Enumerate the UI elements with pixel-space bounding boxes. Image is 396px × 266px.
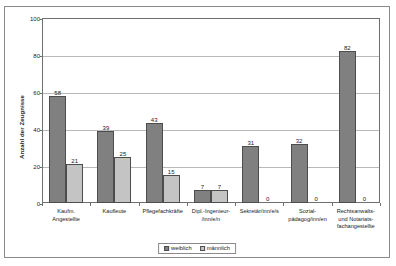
bar-weiblich[interactable]: 82	[339, 51, 356, 203]
x-tick-mark	[380, 203, 381, 206]
x-tick-label-line: und Notariats-	[328, 216, 384, 224]
bar-value-label: 0	[363, 196, 366, 202]
bar-value-label: 39	[103, 125, 110, 131]
y-axis-title-text: Anzahl der Zeugnisse	[19, 67, 25, 187]
bar-value-label: 58	[54, 90, 61, 96]
bar-value-label: 25	[120, 151, 127, 157]
bar-group: 4315	[139, 18, 187, 203]
x-tick-mark	[235, 203, 236, 206]
bars-layer: 58213925431577310320820	[42, 18, 380, 203]
chart-legend: weiblichmännlich	[158, 243, 236, 254]
bar-value-label: 7	[201, 184, 204, 190]
y-tick-label: 40	[33, 127, 40, 133]
bar-männlich[interactable]: 7	[211, 190, 228, 203]
bar-männlich[interactable]: 21	[66, 164, 83, 203]
bar-weiblich[interactable]: 32	[291, 144, 308, 203]
x-tick-mark	[90, 203, 91, 206]
legend-swatch-icon	[200, 246, 205, 251]
x-tick-mark	[283, 203, 284, 206]
x-tick-label-line: /inn/e/n	[183, 216, 239, 224]
bar-männlich[interactable]: 25	[114, 157, 131, 203]
x-axis-labels: Kaufm.AngestellteKaufleutePflegefachkräf…	[42, 208, 380, 242]
y-axis-title: Anzahl der Zeugnisse	[19, 0, 31, 67]
bar-value-label: 32	[296, 138, 303, 144]
bar-value-label: 82	[344, 45, 351, 51]
bar-weiblich[interactable]: 7	[194, 190, 211, 203]
x-tick-label: Rechtsanwalts-und Notariats-fachangestel…	[328, 208, 384, 231]
bar-value-label: 21	[71, 158, 78, 164]
y-tick-label: 80	[33, 53, 40, 59]
bar-group: 310	[235, 18, 283, 203]
x-tick-mark	[332, 203, 333, 206]
bar-value-label: 43	[151, 117, 158, 123]
bar-weiblich[interactable]: 31	[242, 146, 259, 203]
legend-label: weiblich	[171, 245, 192, 251]
legend-item[interactable]: männlich	[200, 245, 230, 251]
bar-value-label: 0	[266, 196, 269, 202]
x-axis-ticks	[42, 203, 380, 207]
x-tick-label-line: Angestellte	[38, 216, 94, 224]
x-tick-label-line: Rechtsanwalts-	[328, 208, 384, 216]
bar-group: 3925	[90, 18, 138, 203]
chart-figure: Anzahl der Zeugnisse 020406080100 582139…	[4, 6, 390, 258]
x-tick-label-line: fachangestellte	[328, 223, 384, 231]
x-tick-mark	[187, 203, 188, 206]
y-tick-label: 20	[33, 164, 40, 170]
y-tick-label: 60	[33, 90, 40, 96]
y-tick-label: 0	[37, 201, 40, 207]
bar-group: 5821	[42, 18, 90, 203]
x-tick-mark	[139, 203, 140, 206]
bar-group: 77	[187, 18, 235, 203]
x-tick-mark	[42, 203, 43, 206]
bar-group: 820	[332, 18, 380, 203]
bar-value-label: 15	[168, 169, 175, 175]
legend-swatch-icon	[164, 246, 169, 251]
bar-value-label: 7	[218, 184, 221, 190]
y-tick-label: 100	[30, 16, 40, 22]
bar-weiblich[interactable]: 58	[49, 96, 66, 203]
bar-weiblich[interactable]: 39	[97, 131, 114, 203]
legend-label: männlich	[207, 245, 230, 251]
bar-value-label: 31	[247, 140, 254, 146]
bar-männlich[interactable]: 15	[163, 175, 180, 203]
bar-value-label: 0	[314, 196, 317, 202]
legend-item[interactable]: weiblich	[164, 245, 192, 251]
bar-weiblich[interactable]: 43	[146, 123, 163, 203]
bar-group: 320	[283, 18, 331, 203]
